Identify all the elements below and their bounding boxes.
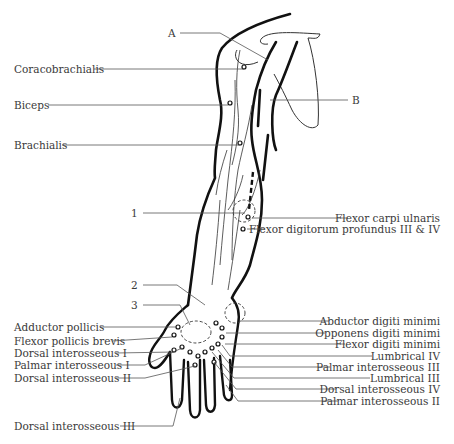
label-2: 2 — [131, 279, 138, 291]
label-dorsal-interosseous-1: Dorsal interosseous I — [14, 347, 127, 359]
wrist-dashed-circle — [225, 303, 245, 323]
label-abductor-digiti-minimi: Abductor digiti minimi — [320, 315, 440, 327]
palm-dashed-ellipse — [181, 321, 211, 343]
label-palmar-interosseous-1: Palmar interosseous I — [14, 359, 130, 371]
arm-outer-contour — [188, 14, 297, 305]
label-flexor-pollicis-brevis: Flexor pollicis brevis — [14, 335, 125, 347]
arm-innervation-diagram: A B 1 2 3 Coracobrachialis Biceps Brachi… — [0, 0, 454, 444]
scapula-outline — [236, 33, 320, 128]
label-palmar-interosseous-2: Palmar interosseous II — [320, 395, 440, 407]
forearm-hand-contour — [149, 298, 239, 418]
label-3: 3 — [131, 299, 138, 311]
label-adductor-pollicis: Adductor pollicis — [14, 321, 104, 333]
label-flexor-digiti-minimi: Flexor digiti minimi — [335, 338, 440, 350]
label-brachialis: Brachialis — [14, 139, 67, 151]
label-1: 1 — [131, 207, 138, 219]
label-b: B — [352, 94, 360, 106]
label-dorsal-interosseous-4: Dorsal interosseous IV — [319, 383, 440, 395]
label-dorsal-interosseous-3: Dorsal interosseous III — [14, 420, 135, 432]
label-coracobrachialis: Coracobrachialis — [14, 63, 104, 75]
elbow-dashed-circle — [233, 200, 255, 222]
label-flexor-digitorum-profundus: Flexor digitorum profundus III & IV — [249, 223, 440, 235]
label-dorsal-interosseous-2: Dorsal interosseous II — [14, 372, 131, 384]
label-a: A — [168, 27, 176, 39]
label-biceps: Biceps — [14, 99, 49, 111]
